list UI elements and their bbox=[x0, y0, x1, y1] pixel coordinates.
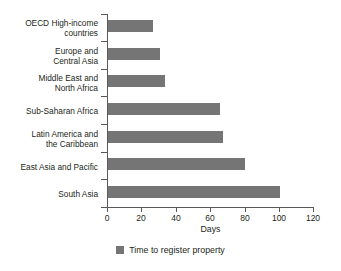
category-label-line: Europe and bbox=[2, 46, 98, 56]
category-label-line: Middle East and bbox=[2, 73, 98, 83]
x-axis-tick bbox=[176, 207, 177, 212]
x-axis-tick bbox=[313, 207, 314, 212]
bar-europe-and-central-asia bbox=[108, 48, 160, 60]
x-axis-tick bbox=[107, 207, 108, 212]
category-label-south-asia: South Asia bbox=[2, 189, 98, 199]
category-label-line: North Africa bbox=[2, 83, 98, 93]
y-axis-tick bbox=[101, 179, 107, 180]
x-axis-tick-label: 80 bbox=[230, 213, 260, 223]
legend-swatch-icon bbox=[116, 246, 124, 254]
bar-south-asia bbox=[108, 186, 280, 198]
x-axis-tick bbox=[279, 207, 280, 212]
bar-latin-america-and-the-caribbean bbox=[108, 131, 223, 143]
x-axis-tick-label: 40 bbox=[161, 213, 191, 223]
category-label-sub-saharan-africa: Sub-Saharan Africa bbox=[2, 106, 98, 116]
category-label-east-asia-and-pacific: East Asia and Pacific bbox=[2, 162, 98, 172]
x-axis-tick bbox=[210, 207, 211, 212]
y-axis-tick bbox=[101, 41, 107, 42]
category-label-oecd-high-income-countries: OECD High-income countries bbox=[2, 18, 98, 38]
category-label-latin-america-and-the-caribbean: Latin America and the Caribbean bbox=[2, 129, 98, 149]
bar-oecd-high-income-countries bbox=[108, 20, 153, 32]
x-axis-title: Days bbox=[107, 224, 314, 234]
legend-label: Time to register property bbox=[129, 245, 225, 255]
category-label-line: countries bbox=[2, 28, 98, 38]
category-label-line: Sub-Saharan Africa bbox=[2, 106, 98, 116]
x-axis-tick-label: 60 bbox=[195, 213, 225, 223]
bar-middle-east-and-north-africa bbox=[108, 75, 165, 87]
category-label-line: Latin America and bbox=[2, 129, 98, 139]
x-axis-tick-label: 0 bbox=[92, 213, 122, 223]
x-axis-tick bbox=[245, 207, 246, 212]
category-label-line: East Asia and Pacific bbox=[2, 162, 98, 172]
y-axis-tick bbox=[101, 14, 107, 15]
bar-sub-saharan-africa bbox=[108, 103, 220, 115]
y-axis-tick bbox=[101, 69, 107, 70]
x-axis-tick-label: 100 bbox=[264, 213, 294, 223]
category-label-europe-and-central-asia: Europe and Central Asia bbox=[2, 46, 98, 66]
category-label-line: South Asia bbox=[2, 189, 98, 199]
category-label-line: OECD High-income bbox=[2, 18, 98, 28]
x-axis-tick-label: 120 bbox=[298, 213, 328, 223]
x-axis-tick bbox=[141, 207, 142, 212]
y-axis-tick bbox=[101, 96, 107, 97]
x-axis-tick-label: 20 bbox=[126, 213, 156, 223]
category-label-line: Central Asia bbox=[2, 56, 98, 66]
y-axis-tick bbox=[101, 152, 107, 153]
chart-legend: Time to register property bbox=[0, 245, 341, 255]
bar-chart: OECD High-income countries Europe and Ce… bbox=[0, 0, 341, 271]
category-label-line: the Caribbean bbox=[2, 139, 98, 149]
y-axis-tick bbox=[101, 124, 107, 125]
bar-east-asia-and-pacific bbox=[108, 158, 245, 170]
category-label-middle-east-and-north-africa: Middle East and North Africa bbox=[2, 73, 98, 93]
